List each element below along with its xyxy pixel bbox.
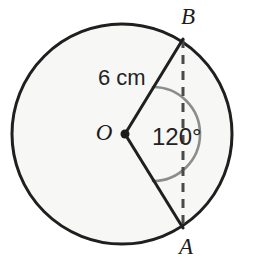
radius-measure-label: 6 cm	[98, 65, 146, 90]
point-label-b: B	[181, 4, 195, 29]
point-label-a: A	[177, 234, 194, 259]
center-point-dot	[121, 130, 130, 139]
circle-diagram-canvas: O B A 6 cm 120°	[0, 0, 254, 261]
angle-measure-label: 120°	[152, 123, 202, 150]
center-point-label-o: O	[96, 120, 113, 145]
geometry-figure: O B A 6 cm 120°	[0, 0, 254, 261]
